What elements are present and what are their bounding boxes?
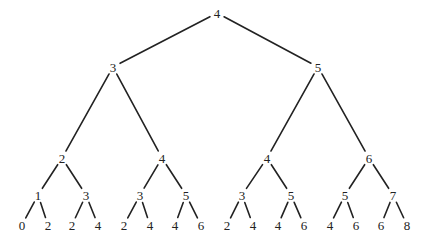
- tree-edge: [66, 165, 81, 189]
- tree-node: 4: [147, 219, 154, 232]
- tree-node: 0: [19, 219, 26, 232]
- tree-edge: [143, 203, 148, 218]
- tree-node: 6: [366, 152, 373, 165]
- tree-edge: [66, 74, 109, 151]
- tree-edge: [26, 202, 34, 218]
- tree-node: 6: [301, 219, 308, 232]
- tree-edge: [144, 165, 158, 188]
- tree-node: 4: [264, 152, 271, 165]
- tree-node: 4: [95, 219, 102, 232]
- tree-node: 4: [172, 219, 179, 232]
- tree-edge: [322, 74, 365, 151]
- tree-edge: [128, 202, 136, 218]
- tree-edge: [396, 202, 403, 218]
- tree-node: 4: [159, 152, 166, 165]
- tree-node: 3: [239, 189, 246, 202]
- tree-edge: [245, 203, 250, 218]
- tree-node: 5: [315, 61, 322, 74]
- tree-edge: [89, 202, 95, 217]
- tree-node: 6: [378, 219, 385, 232]
- tree-node: 2: [121, 219, 128, 232]
- tree-node: 7: [390, 189, 397, 202]
- tree-node: 2: [69, 219, 76, 232]
- tree-edge: [294, 202, 301, 217]
- tree-edge: [246, 165, 262, 189]
- tree-node: 5: [183, 189, 190, 202]
- tree-node: 3: [137, 189, 144, 202]
- tree-edge: [281, 202, 288, 217]
- tree-node: 5: [288, 189, 295, 202]
- tree-edge: [271, 165, 286, 189]
- tree-node: 2: [59, 152, 66, 165]
- tree-node: 6: [198, 219, 205, 232]
- tree-node: 4: [275, 219, 282, 232]
- tree-edge: [42, 165, 57, 189]
- tree-edge: [224, 17, 311, 63]
- tree-node: 5: [342, 189, 349, 202]
- tree-node: 2: [45, 219, 52, 232]
- tree-edge: [373, 165, 388, 189]
- tree-node: 4: [250, 219, 257, 232]
- tree-edge: [384, 202, 390, 217]
- tree-edge: [166, 165, 181, 189]
- tree-edge: [349, 165, 364, 189]
- tree-edge: [178, 203, 183, 218]
- tree-node: 3: [83, 189, 90, 202]
- tree-node: 6: [353, 219, 360, 232]
- tree-node: 4: [214, 7, 221, 20]
- tree-edge: [334, 202, 342, 218]
- tree-edge: [75, 202, 82, 218]
- tree-edge: [41, 203, 46, 218]
- tree-node: 2: [224, 219, 231, 232]
- tree-edge: [231, 202, 239, 218]
- tree-node: 4: [327, 219, 334, 232]
- tree-node: 8: [404, 219, 411, 232]
- tree-node: 1: [35, 189, 42, 202]
- tree-edge: [190, 202, 198, 218]
- tree-edges: [0, 0, 428, 242]
- tree-edge: [120, 17, 210, 64]
- tree-edge: [117, 74, 158, 151]
- tree-edge: [271, 74, 314, 151]
- tree-edge: [348, 203, 353, 218]
- tree-node: 3: [110, 61, 117, 74]
